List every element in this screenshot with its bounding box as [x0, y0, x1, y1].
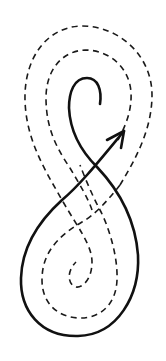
solid-looping-curve: [21, 78, 138, 336]
diagram-canvas: Hand-drawn figure-eight curve with an ar…: [0, 0, 166, 361]
figure-eight-diagram: [0, 0, 166, 361]
